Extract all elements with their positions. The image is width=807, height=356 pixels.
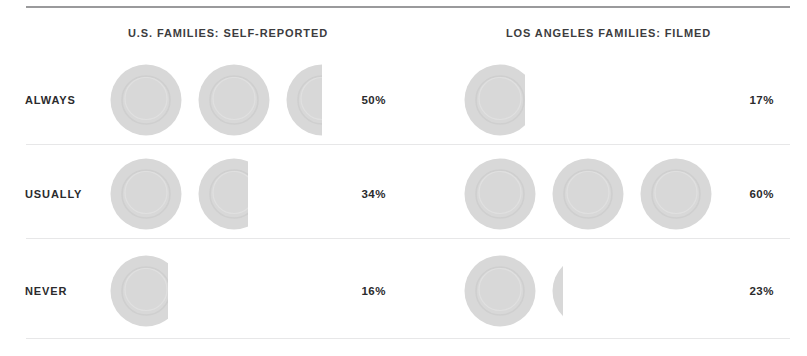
percent-value-right-always: 17% — [718, 94, 774, 106]
row-label-always: ALWAYS — [25, 94, 76, 106]
plate-icon-full — [198, 64, 270, 136]
plate-icon-full — [110, 64, 182, 136]
column-header-right: LOS ANGELES FAMILIES: FILMED — [506, 27, 711, 39]
plate-icon-partial — [198, 158, 248, 230]
column-header-left: U.S. FAMILIES: SELF-REPORTED — [128, 27, 328, 39]
top-divider-rule — [26, 6, 790, 8]
plate-icon-full — [464, 158, 536, 230]
row-label-never: NEVER — [25, 285, 67, 297]
pictogram-group-right-always — [464, 55, 541, 144]
plate-icon-full — [110, 158, 182, 230]
pictogram-group-right-never — [464, 244, 579, 338]
pictogram-group-left-never — [110, 244, 184, 338]
plate-icon-partial — [286, 64, 322, 136]
pictogram-group-right-usually — [464, 149, 728, 238]
percent-value-right-usually: 60% — [718, 188, 774, 200]
chart-row: USUALLY 34% 60% — [0, 149, 807, 238]
plate-icon-full — [640, 158, 712, 230]
bottom-divider-rule — [26, 338, 790, 339]
percent-value-left-always: 50% — [330, 94, 386, 106]
pictogram-group-left-usually — [110, 149, 264, 238]
plate-icon-partial — [110, 255, 168, 327]
pictogram-group-left-always — [110, 55, 338, 144]
percent-value-left-never: 16% — [330, 285, 386, 297]
row-divider-rule — [26, 144, 790, 145]
chart-row: ALWAYS 50% 17% — [0, 55, 807, 144]
plate-icon-partial — [552, 255, 563, 327]
pictogram-chart: U.S. FAMILIES: SELF-REPORTED LOS ANGELES… — [0, 0, 807, 356]
percent-value-left-usually: 34% — [330, 188, 386, 200]
row-label-usually: USUALLY — [25, 188, 82, 200]
chart-row: NEVER 16% 23% — [0, 244, 807, 338]
plate-icon-full — [552, 158, 624, 230]
row-divider-rule — [26, 238, 790, 239]
percent-value-right-never: 23% — [718, 285, 774, 297]
plate-icon-full — [464, 255, 536, 327]
plate-icon-partial — [464, 64, 525, 136]
